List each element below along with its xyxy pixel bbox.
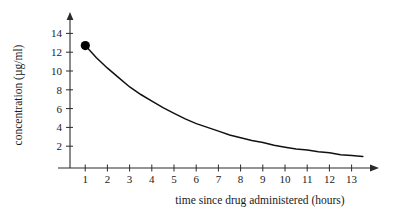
- concentration-vs-time-plot: 2 4 6 8 10 12 14 1 2 3: [0, 0, 394, 218]
- y-axis-tick-labels: 2 4 6 8 10 12 14: [51, 27, 63, 152]
- x-tick-label: 13: [346, 173, 358, 185]
- y-tick-label: 8: [57, 84, 63, 96]
- x-tick-label: 8: [238, 173, 244, 185]
- x-tick-label: 12: [324, 173, 335, 185]
- decay-curve: [85, 46, 363, 157]
- y-tick-label: 2: [57, 140, 63, 152]
- y-axis-arrow-icon: [67, 12, 74, 20]
- chart-container: 2 4 6 8 10 12 14 1 2 3: [0, 0, 394, 218]
- x-axis-title: time since drug administered (hours): [175, 194, 344, 207]
- x-tick-label: 7: [216, 173, 222, 185]
- y-axis-title: concentration (µg/ml): [12, 44, 25, 145]
- x-tick-label: 4: [149, 173, 155, 185]
- x-tick-label: 2: [105, 173, 111, 185]
- data-point-marker: [81, 41, 90, 50]
- x-tick-label: 10: [280, 173, 292, 185]
- x-tick-label: 5: [171, 173, 177, 185]
- y-tick-label: 12: [51, 46, 62, 58]
- x-axis-arrow-icon: [370, 164, 379, 171]
- x-tick-label: 9: [260, 173, 266, 185]
- x-tick-label: 11: [302, 173, 313, 185]
- y-tick-label: 14: [51, 27, 63, 39]
- x-tick-label: 1: [82, 173, 88, 185]
- y-tick-label: 6: [57, 103, 63, 115]
- x-tick-label: 6: [193, 173, 199, 185]
- y-tick-label: 4: [57, 121, 63, 133]
- y-tick-label: 10: [51, 65, 63, 77]
- x-tick-label: 3: [127, 173, 133, 185]
- x-axis-tick-labels: 1 2 3 4 5 6 7 8 9 10 11 12 13: [82, 173, 357, 185]
